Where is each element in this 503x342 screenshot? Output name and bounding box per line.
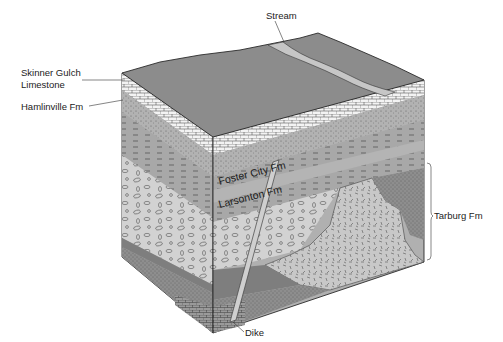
stream-leader: [275, 21, 284, 42]
label-tarburg: Tarburg Fm: [434, 210, 483, 221]
label-dike: Dike: [245, 327, 264, 338]
tarburg-bracket: [427, 163, 433, 260]
label-stream: Stream: [266, 10, 297, 21]
hamlinville-leader: [89, 100, 123, 106]
label-skinner-gulch-line2: Limestone: [21, 79, 65, 90]
label-skinner-gulch-line1: Skinner Gulch: [21, 67, 81, 78]
label-hamlinville: Hamlinville Fm: [21, 101, 83, 112]
